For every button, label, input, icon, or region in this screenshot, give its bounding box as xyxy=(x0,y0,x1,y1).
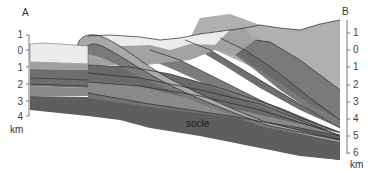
left-tick-1: 1 xyxy=(9,30,23,40)
right-unit-label: km xyxy=(350,160,363,170)
left-socle-layer xyxy=(30,96,88,116)
right-tick-0: 0 xyxy=(353,45,359,55)
socle-label: socle xyxy=(186,119,209,129)
left-tick-4: 4 xyxy=(9,112,23,122)
left-tick-2: 2 xyxy=(9,80,23,90)
point-b-label: B xyxy=(342,7,349,17)
right-tick-1: 1 xyxy=(353,28,359,38)
right-tick-6: 6 xyxy=(353,148,359,158)
left-tick-3: 3 xyxy=(9,97,23,107)
right-tick-4: 4 xyxy=(353,114,359,124)
cross-section-diagram xyxy=(0,0,368,173)
left-tick-0: 0 xyxy=(9,46,23,56)
left-tick-1b: 1 xyxy=(9,63,23,73)
right-tick-5: 5 xyxy=(353,131,359,141)
left-unit-label: km xyxy=(10,125,23,135)
point-a-label: A xyxy=(22,8,29,18)
right-tick-1b: 1 xyxy=(353,62,359,72)
right-tick-3: 3 xyxy=(353,97,359,107)
right-tick-2: 2 xyxy=(353,80,359,90)
left-surface-layer xyxy=(30,43,88,64)
